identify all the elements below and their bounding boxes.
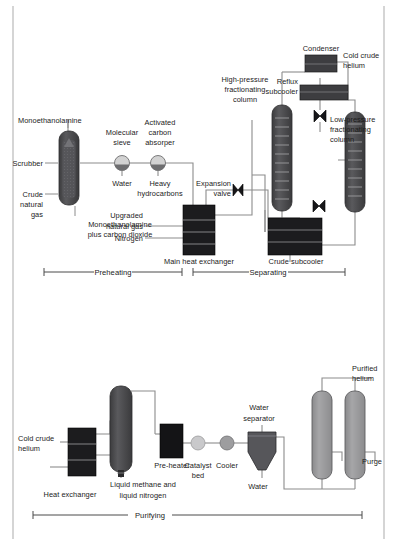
label-hp-column-line1: High-pressure — [221, 75, 268, 84]
pre-heater-block — [160, 424, 183, 458]
label-upgraded-natural-gas-line1: Upgraded — [110, 211, 143, 220]
label-monoethanolamine: Monoethanolamine — [18, 116, 82, 125]
label-liquid-methane-line2: liquid nitrogen — [120, 491, 167, 500]
label-lp-column-line2: fractionating — [330, 125, 371, 134]
condenser-block — [305, 55, 337, 72]
label-crude-natural-gas-line1: Crude — [23, 190, 43, 199]
label-cold-crude-helium-line2: helium — [343, 61, 365, 70]
expansion-valve-symbol — [233, 184, 243, 196]
crude-subcooler-valve-symbol — [313, 200, 325, 212]
label-main-heat-exchanger: Main heat exchanger — [164, 257, 234, 266]
label-activated-carbon-line3: absorper — [145, 138, 175, 147]
bracket-label-preheating: Preheating — [94, 268, 131, 277]
label-purified-helium-line2: helium — [352, 374, 374, 383]
label-nitrogen: Nitrogen — [115, 234, 143, 243]
label-expansion-valve-line1: Expansion — [196, 179, 231, 188]
label-purified-helium-line1: Purified — [352, 364, 377, 373]
label-catalyst-bed-line2: bed — [192, 471, 204, 480]
high-pressure-fractionating-column — [272, 105, 292, 211]
label-molecular-sieve-line2: sieve — [113, 138, 131, 147]
label-crude-natural-gas-line3: gas — [31, 210, 43, 219]
label-crude-subcooler: Crude subcooler — [269, 257, 324, 266]
molecular-sieve-unit — [115, 156, 130, 177]
label-water-separator-line2: separator — [243, 414, 275, 423]
label-bottom-water: Water — [248, 482, 268, 491]
label-activated-carbon-line2: carbon — [149, 128, 172, 137]
main-heat-exchanger-block — [183, 205, 215, 255]
process-flow-diagram: Monoethanolamine Scrubber Crude natural … — [0, 0, 397, 545]
label-reflux-subcooler-line1: Reflux — [277, 77, 299, 86]
label-cooler: Cooler — [216, 461, 239, 470]
label-cold-crude-helium-line1: Cold crude — [343, 51, 379, 60]
label-upgraded-natural-gas-line2: natural gas — [106, 222, 143, 231]
bracket-label-separating: Separating — [249, 268, 286, 277]
catalyst-bed-unit — [191, 436, 205, 450]
label-expansion-valve-line2: valve — [213, 189, 231, 198]
label-bottom-heat-exchanger: Heat exchanger — [44, 490, 97, 499]
label-catalyst-bed-line1: Catalyst — [184, 461, 211, 470]
label-reflux-subcooler-line2: subcooler — [266, 87, 299, 96]
bracket-label-purifying: Purifying — [135, 511, 165, 520]
stage-bracket-separating: Separating — [193, 268, 345, 277]
label-bottom-cold-crude-helium-line1: Cold crude — [18, 434, 54, 443]
label-activated-carbon-line1: Activated — [145, 118, 176, 127]
label-purge: Purge — [362, 457, 382, 466]
reflux-subcooler-block — [300, 85, 348, 100]
label-hp-column-line2: fractionating — [225, 85, 266, 94]
label-water-separator-line1: Water — [249, 403, 269, 412]
activated-carbon-absorber-unit — [151, 156, 166, 177]
cooler-unit — [220, 436, 234, 450]
stage-bracket-preheating: Preheating — [44, 268, 182, 277]
water-separator-unit — [248, 432, 276, 470]
label-scrubber: Scrubber — [13, 159, 44, 168]
label-lp-column-line1: Low-pressure — [330, 115, 375, 124]
bottom-heat-exchanger-block — [68, 428, 96, 476]
purification-column-left — [312, 391, 332, 479]
reflux-valve-symbol — [314, 110, 326, 122]
label-liquid-methane-line1: Liquid methane and — [110, 480, 176, 489]
label-heavy-hydrocarbons-line2: hydrocarbons — [137, 189, 183, 198]
crude-subcooler-block — [268, 218, 322, 255]
label-hp-column-line3: column — [233, 95, 257, 104]
label-condenser: Condenser — [303, 44, 340, 53]
label-water-top: Water — [112, 179, 132, 188]
label-crude-natural-gas-line2: natural — [20, 200, 43, 209]
stage-bracket-purifying: Purifying — [33, 511, 362, 520]
liquid-methane-nitrogen-vessel — [110, 386, 132, 477]
label-lp-column-line3: column — [330, 135, 354, 144]
scrubber-vessel — [59, 131, 79, 205]
label-bottom-cold-crude-helium-line2: helium — [18, 444, 40, 453]
label-molecular-sieve-line1: Molecular — [106, 128, 139, 137]
label-heavy-hydrocarbons-line1: Heavy — [149, 179, 170, 188]
